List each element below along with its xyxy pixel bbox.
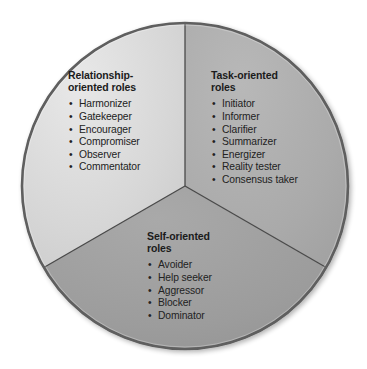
roles-pie-diagram: Relationship- oriented roles •Harmonizer… (0, 0, 367, 369)
pie-body (22, 23, 348, 349)
pie-chart-graphic (0, 0, 367, 369)
